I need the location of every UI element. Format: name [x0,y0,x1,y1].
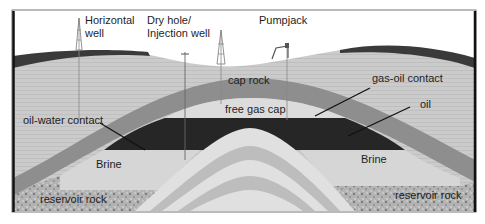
label-horizontal-well-1: Horizontal [85,14,135,26]
label-free-gas-cap: free gas cap [225,103,286,115]
label-oil: oil [420,98,431,110]
label-oil-water-contact: oil-water contact [23,114,103,126]
label-gas-oil-contact: gas-oil contact [372,72,443,84]
label-reservoir-rock-right: reservoir rock [395,189,462,201]
label-dry-hole-2: Injection well [147,27,210,39]
label-reservoir-rock-left: reservoir rock [40,193,107,205]
label-brine-left: Brine [96,158,122,170]
label-horizontal-well-2: well [84,27,104,39]
cross-section: Horizontal well Dry hole/ Injection well… [13,11,475,211]
label-cap-rock: cap rock [228,74,270,86]
label-brine-right: Brine [361,153,387,165]
label-dry-hole-1: Dry hole/ [147,14,192,26]
oil-trap-diagram: Horizontal well Dry hole/ Injection well… [0,0,485,224]
label-pumpjack: Pumpjack [259,14,308,26]
